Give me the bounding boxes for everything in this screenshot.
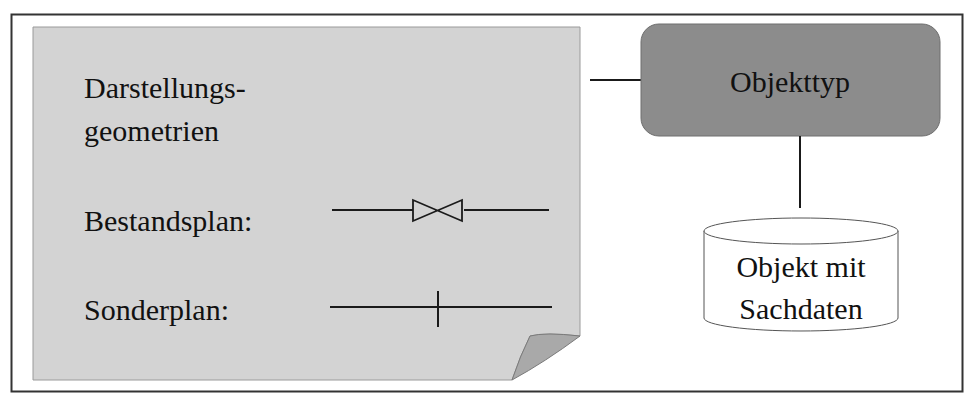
page-title-line2: geometrien [84, 114, 219, 147]
object-type-label: Objekttyp [730, 65, 850, 98]
object-store-label-line1: Objekt mit [736, 250, 866, 283]
object-type-box: Objekttyp [641, 24, 940, 136]
page-title-line1: Darstellungs- [84, 71, 246, 104]
sonderplan-label: Sonderplan: [84, 293, 229, 326]
bestandsplan-label: Bestandsplan: [84, 204, 252, 237]
object-store-cylinder: Objekt mit Sachdaten [704, 218, 898, 331]
diagram-canvas: Darstellungs- geometrien Bestandsplan: S… [0, 0, 974, 403]
object-store-label-line2: Sachdaten [739, 292, 862, 325]
cylinder-top [704, 218, 898, 244]
